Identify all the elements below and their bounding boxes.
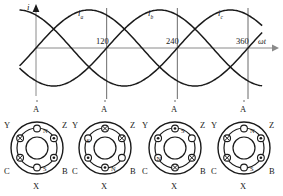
pole-label-S-bottom: S	[250, 166, 254, 173]
curve-label-ia-sub: a	[80, 14, 83, 20]
terminal-label-X: X	[33, 182, 39, 191]
y-axis-arrow	[33, 4, 40, 12]
terminal-label-B: B	[130, 167, 136, 176]
curve-label-ic-sub: c	[220, 14, 222, 20]
slot-upper_right-dot-icon	[50, 135, 57, 142]
terminal-label-A: A	[33, 105, 39, 114]
slot-upper_right-dot-icon	[257, 135, 264, 142]
slot-bottom-circle-icon	[241, 164, 248, 171]
curve-label-ib: ib	[148, 9, 153, 20]
stator-diagram-0: AXYZCBNS	[2, 100, 72, 196]
terminal-label-X: X	[101, 182, 107, 191]
slot-top-circle-icon	[34, 125, 41, 132]
terminal-label-C: C	[211, 167, 217, 176]
rotor-bore-circle	[26, 137, 48, 159]
terminal-label-C: C	[142, 167, 148, 176]
stator-inner-circle	[17, 128, 57, 168]
terminal-label-A: A	[171, 105, 177, 114]
slot-top-cross-icon	[102, 125, 109, 132]
stator-diagram-3: AXYZCBNS	[209, 100, 279, 196]
rotor-bore-circle	[94, 137, 116, 159]
slot-upper_right-circle-icon	[188, 135, 195, 142]
terminal-label-B: B	[200, 167, 206, 176]
slot-lower_right-circle-icon	[118, 154, 125, 161]
slot-lower_left-dot-icon	[85, 154, 92, 161]
terminal-label-B: B	[269, 167, 275, 176]
terminal-label-Z: Z	[269, 121, 274, 130]
stator-inner-circle	[224, 128, 264, 168]
terminal-label-C: C	[4, 167, 10, 176]
stator-diagram-2: AXYZCBSN	[140, 100, 210, 196]
pole-label-S-upper_left: S	[87, 138, 91, 145]
x-axis-arrow	[272, 45, 279, 52]
slot-bottom-circle-icon	[34, 164, 41, 171]
x-tick-label-120: 120	[96, 37, 109, 46]
x-tick-label-240: 240	[166, 37, 179, 46]
slot-top-dot-icon	[172, 125, 179, 132]
three-phase-rotating-field-figure: i ωt ia ib ic 120 240 360 AXYZCBNS AXYZC…	[0, 0, 283, 196]
slot-bottom-cross-icon	[172, 164, 179, 171]
pole-label-N-top: N	[250, 128, 255, 135]
gridlines	[36, 8, 248, 99]
x-tick-label-360: 360	[236, 37, 249, 46]
slot-top-circle-icon	[241, 125, 248, 132]
curve-label-ia: ia	[78, 9, 83, 20]
slot-upper_left-cross-icon	[17, 135, 24, 142]
y-axis-label: i	[27, 3, 30, 12]
terminal-label-Z: Z	[200, 121, 205, 130]
terminal-label-Z: Z	[130, 121, 135, 130]
terminal-label-Z: Z	[62, 121, 67, 130]
pole-label-N-lower_left: N	[157, 156, 162, 163]
pole-label-N-top: N	[43, 128, 48, 135]
slot-upper_left-dot-icon	[155, 135, 162, 142]
slot-lower_right-cross-icon	[188, 154, 195, 161]
stator-inner-circle	[85, 128, 125, 168]
slot-upper_left-cross-icon	[224, 135, 231, 142]
slot-lower_left-cross-icon	[224, 154, 231, 161]
waveform-svg	[0, 0, 283, 100]
slot-lower_right-dot-icon	[50, 154, 57, 161]
curve-label-ib-sub: b	[150, 14, 153, 20]
terminal-label-A: A	[240, 105, 246, 114]
terminal-label-A: A	[101, 105, 107, 114]
pole-label-S-bottom: S	[43, 166, 47, 173]
terminal-label-Y: Y	[4, 121, 10, 130]
slot-lower_right-dot-icon	[257, 154, 264, 161]
stator-diagram-row: AXYZCBNS AXYZCBSN AXYZCBSN AXYZCBNS	[0, 100, 283, 196]
pole-label-S-top: S	[181, 128, 185, 135]
stator-diagram-1: AXYZCBSN	[70, 100, 140, 196]
terminal-label-Y: Y	[72, 121, 78, 130]
terminal-label-Y: Y	[211, 121, 217, 130]
terminal-label-Y: Y	[142, 121, 148, 130]
terminal-label-C: C	[72, 167, 78, 176]
slot-bottom-dot-icon	[102, 164, 109, 171]
pole-label-N-bottom: N	[111, 166, 116, 173]
rotor-bore-circle	[164, 137, 186, 159]
x-axis-label: ωt	[258, 38, 266, 46]
terminal-label-X: X	[171, 182, 177, 191]
terminal-label-B: B	[62, 167, 68, 176]
curve-label-ic: ic	[218, 9, 223, 20]
rotor-bore-circle	[233, 137, 255, 159]
terminal-label-X: X	[240, 182, 246, 191]
slot-lower_left-cross-icon	[17, 154, 24, 161]
slot-upper_right-cross-icon	[118, 135, 125, 142]
current-waveform-chart: i ωt ia ib ic 120 240 360	[0, 0, 283, 100]
